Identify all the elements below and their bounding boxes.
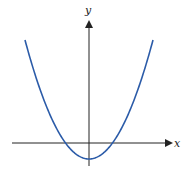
parabola-chart: x y	[0, 0, 186, 171]
y-axis-label: y	[84, 4, 92, 17]
x-axis-label: x	[174, 137, 181, 150]
